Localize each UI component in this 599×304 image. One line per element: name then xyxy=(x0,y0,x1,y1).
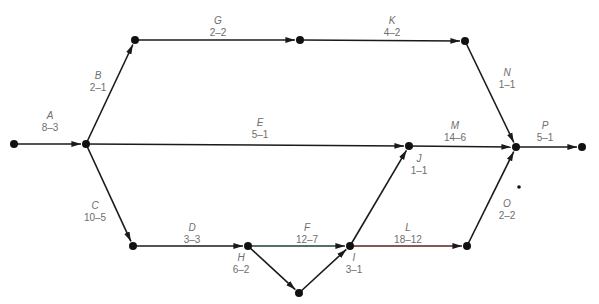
activity-arrow-e xyxy=(86,144,404,146)
event-node xyxy=(405,142,413,150)
activity-duration: 2–2 xyxy=(210,27,227,39)
activity-name: P xyxy=(537,120,554,132)
activity-duration: 5–1 xyxy=(537,132,554,144)
event-node xyxy=(578,143,586,151)
activity-label-p: P5–1 xyxy=(537,120,554,144)
activity-duration: 2–2 xyxy=(499,210,516,222)
activity-label-l: L18–12 xyxy=(394,222,422,246)
event-node xyxy=(296,36,304,44)
activity-duration: 10–5 xyxy=(84,212,106,224)
activity-duration: 1–1 xyxy=(411,165,428,177)
activity-arrow-b xyxy=(86,45,133,144)
activity-arrow-c xyxy=(86,144,131,241)
event-node xyxy=(512,143,520,151)
activity-name: K xyxy=(384,15,401,27)
activity-name: E xyxy=(252,117,269,129)
event-node xyxy=(244,242,252,250)
activity-label-n: N1–1 xyxy=(499,67,516,91)
event-node xyxy=(131,36,139,44)
activity-name: I xyxy=(346,252,363,264)
activity-label-m: M14–6 xyxy=(444,120,466,144)
activity-arrow-k xyxy=(300,40,460,41)
activity-name: F xyxy=(296,222,318,234)
activity-duration: 3–3 xyxy=(184,234,201,246)
activity-label-h: H6–2 xyxy=(233,252,250,276)
activity-name: B xyxy=(90,70,107,82)
activity-arrow-h xyxy=(248,246,295,290)
activity-duration: 14–6 xyxy=(444,132,466,144)
activity-name: G xyxy=(210,15,227,27)
event-node xyxy=(129,242,137,250)
activity-duration: 6–2 xyxy=(233,264,250,276)
network-diagram xyxy=(0,0,599,304)
activity-duration: 2–1 xyxy=(90,82,107,94)
activity-duration: 12–7 xyxy=(296,234,318,246)
activity-name: N xyxy=(499,67,516,79)
activity-label-a: A8–3 xyxy=(42,110,59,134)
activity-label-i: I3–1 xyxy=(346,252,363,276)
activity-label-f: F12–7 xyxy=(296,222,318,246)
activity-label-e: E5–1 xyxy=(252,117,269,141)
activity-name: O xyxy=(499,198,516,210)
stray-dot xyxy=(517,185,521,189)
activity-name: M xyxy=(444,120,466,132)
activity-label-b: B2–1 xyxy=(90,70,107,94)
activity-arrow-n xyxy=(465,41,514,142)
activity-duration: 1–1 xyxy=(499,79,516,91)
event-node xyxy=(10,140,18,148)
activity-label-j: J1–1 xyxy=(411,153,428,177)
event-node xyxy=(295,289,303,297)
event-node xyxy=(346,242,354,250)
event-node xyxy=(461,37,469,45)
activity-arrow-m xyxy=(409,146,511,147)
event-node xyxy=(463,242,471,250)
activity-duration: 4–2 xyxy=(384,27,401,39)
activity-name: C xyxy=(84,200,106,212)
activity-name: D xyxy=(184,222,201,234)
activity-duration: 8–3 xyxy=(42,122,59,134)
activity-duration: 3–1 xyxy=(346,264,363,276)
activity-label-d: D3–3 xyxy=(184,222,201,246)
activity-label-c: C10–5 xyxy=(84,200,106,224)
activity-arrow-i xyxy=(299,249,346,293)
event-node xyxy=(82,140,90,148)
activity-label-k: K4–2 xyxy=(384,15,401,39)
activity-duration: 18–12 xyxy=(394,234,422,246)
activity-name: L xyxy=(394,222,422,234)
activity-name: A xyxy=(42,110,59,122)
activity-duration: 5–1 xyxy=(252,129,269,141)
activity-label-g: G2–2 xyxy=(210,15,227,39)
activity-name: J xyxy=(411,153,428,165)
activity-label-o: O2–2 xyxy=(499,198,516,222)
activity-name: H xyxy=(233,252,250,264)
